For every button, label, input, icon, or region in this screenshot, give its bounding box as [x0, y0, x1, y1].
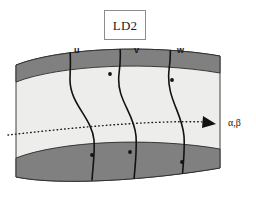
- curve-label-v: v: [134, 46, 139, 55]
- axis-label-alpha-beta: α,β: [228, 118, 241, 128]
- node-dot-icon: [108, 72, 112, 76]
- ld2-title-box: LD2: [104, 10, 146, 40]
- curve-label-u: u: [74, 46, 80, 55]
- node-dot-icon: [90, 153, 94, 157]
- node-dot-icon: [170, 78, 174, 82]
- node-dot-icon: [180, 160, 184, 164]
- node-dot-icon: [128, 150, 132, 154]
- curve-label-w: w: [177, 46, 184, 55]
- ld2-title-text: LD2: [113, 19, 137, 32]
- band-body: [16, 49, 220, 181]
